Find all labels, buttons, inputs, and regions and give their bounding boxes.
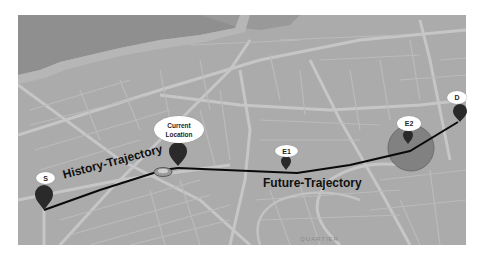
future-trajectory-label: Future-Trajectory [263,176,362,190]
e1-label-text: E1 [282,148,291,155]
map-base-layer: QUARTIER [18,15,466,245]
destination-label[interactable]: D [447,91,467,104]
current-location-label[interactable]: Current Location [154,116,204,143]
current-location-label-line1: Current [167,121,190,130]
start-label[interactable]: S [36,172,55,184]
destination-label-text: D [454,94,459,101]
current-location-label-line2: Location [165,130,192,139]
e2-label[interactable]: E2 [397,116,421,131]
district-label: QUARTIER [300,236,339,242]
map-canvas[interactable]: QUARTIER [18,15,466,245]
e1-label[interactable]: E1 [275,145,298,157]
e2-label-text: E2 [405,120,414,127]
start-label-text: S [43,175,48,182]
